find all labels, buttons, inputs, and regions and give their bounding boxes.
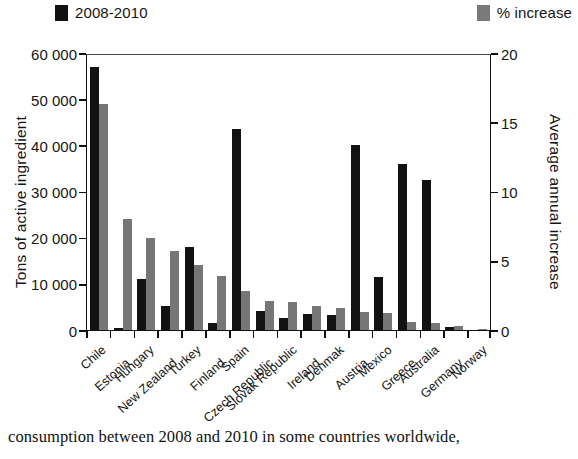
plot-area <box>86 54 491 331</box>
bar-percent-increase <box>478 329 487 330</box>
bar-2008-2010 <box>137 279 146 330</box>
bar-percent-increase <box>265 301 274 330</box>
bar-group <box>324 55 348 330</box>
y-axis-left-tick-label: 10 000 <box>31 276 77 293</box>
bar-group <box>158 55 182 330</box>
bar-percent-increase <box>99 104 108 330</box>
bar-percent-increase <box>454 326 463 330</box>
bar-2008-2010 <box>279 318 288 330</box>
legend-label-black: 2008-2010 <box>75 4 148 21</box>
y-axis-left-title: Tons of active ingredient <box>12 102 30 302</box>
y-axis-left-tick-mark <box>79 99 86 101</box>
bar-group <box>182 55 206 330</box>
bar-group <box>277 55 301 330</box>
y-axis-left-tick-mark <box>79 145 86 147</box>
legend-item-2008-2010: 2008-2010 <box>55 4 148 21</box>
bar-group <box>371 55 395 330</box>
bar-2008-2010 <box>256 311 265 330</box>
chart-legend: 2008-2010 % increase <box>0 0 578 30</box>
bar-percent-increase <box>407 322 416 330</box>
chart-figure: 2008-2010 % increase 0 10 000 20 000 30 … <box>0 0 578 459</box>
bar-percent-increase <box>383 313 392 330</box>
bar-group <box>253 55 277 330</box>
bar-group <box>348 55 372 330</box>
bar-group <box>87 55 111 330</box>
bar-group <box>466 55 490 330</box>
bar-groups <box>87 55 490 330</box>
bar-2008-2010 <box>208 323 217 330</box>
y-axis-left-tick-label: 60 000 <box>31 46 77 63</box>
bar-2008-2010 <box>327 315 336 330</box>
bar-percent-increase <box>146 238 155 330</box>
x-axis-labels: ChileEstoniaHungaryNew ZealandTurkeyFinl… <box>0 331 578 417</box>
bar-2008-2010 <box>374 277 383 330</box>
bar-percent-increase <box>336 308 345 330</box>
bar-percent-increase <box>241 291 250 330</box>
bar-percent-increase <box>288 302 297 330</box>
bar-group <box>419 55 443 330</box>
bar-2008-2010 <box>114 328 123 330</box>
bar-2008-2010 <box>445 327 454 330</box>
bar-percent-increase <box>312 306 321 330</box>
bar-percent-increase <box>360 312 369 330</box>
y-axis-left-tick-mark <box>79 53 86 55</box>
legend-swatch-black <box>55 5 68 21</box>
bar-2008-2010 <box>232 129 241 330</box>
bar-2008-2010 <box>351 145 360 330</box>
bar-percent-increase <box>170 251 179 330</box>
y-axis-right-tick-mark <box>491 192 498 194</box>
y-axis-right-tick-label: 5 <box>501 253 509 270</box>
bar-group <box>300 55 324 330</box>
y-axis-left-tick-label: 50 000 <box>31 92 77 109</box>
y-axis-right-tick-mark <box>491 122 498 124</box>
bar-2008-2010 <box>90 67 99 330</box>
figure-caption: consumption between 2008 and 2010 in som… <box>8 427 574 447</box>
bar-2008-2010 <box>161 306 170 330</box>
bar-percent-increase <box>217 276 226 330</box>
bar-2008-2010 <box>422 180 431 330</box>
y-axis-left-tick-label: 20 000 <box>31 230 77 247</box>
bar-percent-increase <box>431 323 440 330</box>
y-axis-left-tick-label: 30 000 <box>31 184 77 201</box>
legend-swatch-gray <box>477 5 490 21</box>
bar-group <box>134 55 158 330</box>
y-axis-left-tick-label: 40 000 <box>31 138 77 155</box>
bar-group <box>395 55 419 330</box>
y-axis-right-tick-label: 15 <box>501 115 518 132</box>
y-axis-left-tick-mark <box>79 238 86 240</box>
y-axis-right-tick-mark <box>491 53 498 55</box>
bar-group <box>206 55 230 330</box>
bar-group <box>229 55 253 330</box>
y-axis-right-tick-mark <box>491 261 498 263</box>
y-axis-left-tick-mark <box>79 284 86 286</box>
bar-2008-2010 <box>398 164 407 330</box>
bar-percent-increase <box>123 219 132 330</box>
y-axis-right-tick-label: 20 <box>501 46 518 63</box>
y-axis-right-tick-label: 10 <box>501 184 518 201</box>
bar-group <box>443 55 467 330</box>
bar-group <box>111 55 135 330</box>
legend-label-gray: % increase <box>497 4 572 21</box>
bar-2008-2010 <box>185 247 194 330</box>
legend-item-percent-increase: % increase <box>477 4 572 21</box>
y-axis-right-title: Average annual increase <box>546 102 564 302</box>
y-axis-left-tick-mark <box>79 192 86 194</box>
bar-percent-increase <box>194 265 203 330</box>
bar-2008-2010 <box>303 314 312 330</box>
